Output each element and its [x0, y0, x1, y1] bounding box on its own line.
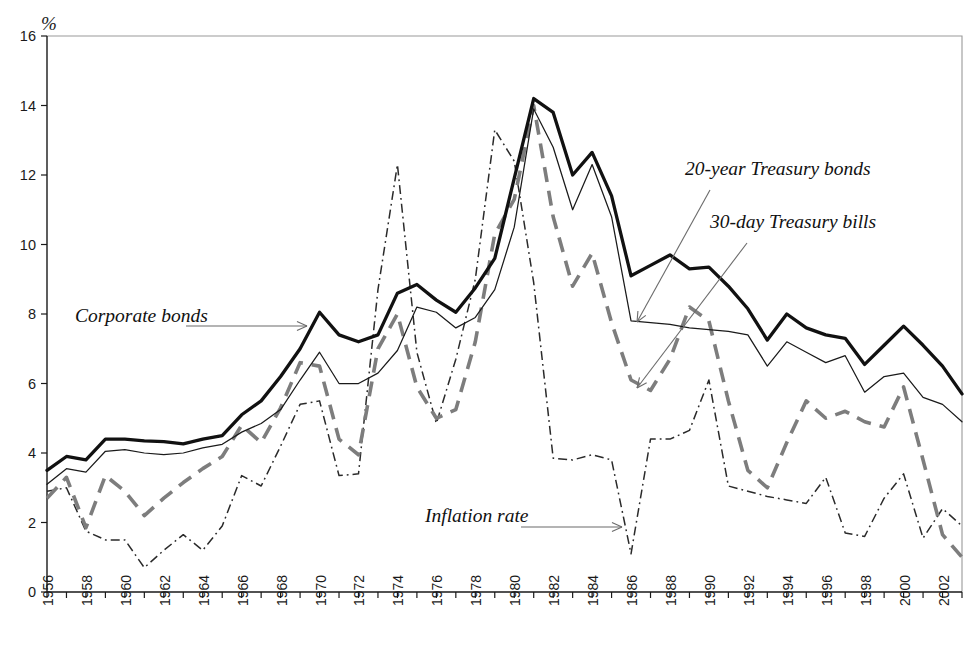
y-tick-label: 4: [28, 445, 36, 461]
x-tick-label: 1958: [79, 575, 95, 606]
x-tick-label: 1994: [780, 575, 796, 606]
y-tick-label: 2: [28, 515, 36, 531]
x-tick-label: 1976: [429, 575, 445, 606]
y-tick-label: 0: [28, 584, 36, 600]
x-tick-label: 1978: [468, 575, 484, 606]
x-tick-label: 1998: [858, 575, 874, 606]
y-tick-label: 14: [20, 98, 36, 114]
annotation-corporate-bonds-label: Corporate bonds: [75, 305, 208, 326]
y-tick-label: 16: [20, 28, 36, 44]
y-tick-label: 8: [28, 306, 36, 322]
y-tick-label: 12: [20, 167, 36, 183]
annotation-20-year-treasury-bonds-label: 20-year Treasury bonds: [685, 158, 871, 179]
chart-container: 0246810121416 19561958196019621964196619…: [0, 0, 980, 654]
annotation-inflation-rate-label: Inflation rate: [424, 505, 529, 526]
x-tick-label: 1968: [274, 575, 290, 606]
annotation-inflation-rate-leader: [521, 523, 622, 532]
x-tick-label: 1996: [819, 575, 835, 606]
annotation-30-day-treasury-bills-label: 30-day Treasury bills: [709, 211, 876, 232]
y-axis-unit-label: %: [41, 13, 57, 34]
x-tick-label: 1988: [663, 575, 679, 606]
x-tick-label: 1962: [157, 575, 173, 606]
x-tick-label: 1966: [235, 575, 251, 606]
x-tick-label: 1982: [546, 575, 562, 606]
y-tick-label: 6: [28, 376, 36, 392]
x-tick-label: 1980: [507, 575, 523, 606]
x-axis-tick-labels: 1956195819601962196419661968197019721974…: [40, 575, 952, 606]
x-tick-label: 1986: [624, 575, 640, 606]
y-tick-label: 10: [20, 237, 36, 253]
x-tick-label: 1974: [390, 575, 406, 606]
x-tick-label: 2000: [897, 575, 913, 606]
x-tick-label: 1972: [351, 575, 367, 606]
y-axis-tick-labels: 0246810121416: [20, 28, 36, 600]
x-tick-label: 1992: [741, 575, 757, 606]
x-tick-label: 2002: [936, 575, 952, 606]
series-line-inflation-rate: [47, 130, 962, 568]
x-tick-label: 1990: [702, 575, 718, 606]
x-tick-label: 1970: [313, 575, 329, 606]
y-axis-ticks: [41, 36, 47, 592]
x-tick-label: 1956: [40, 575, 56, 606]
x-tick-label: 1984: [585, 575, 601, 606]
x-tick-label: 1960: [118, 575, 134, 606]
interest-rate-line-chart: 0246810121416 19561958196019621964196619…: [0, 0, 980, 654]
annotation-20-year-treasury-bonds-leader: [637, 190, 710, 322]
series-line-corporate-bonds: [47, 99, 962, 471]
x-tick-label: 1964: [196, 575, 212, 606]
